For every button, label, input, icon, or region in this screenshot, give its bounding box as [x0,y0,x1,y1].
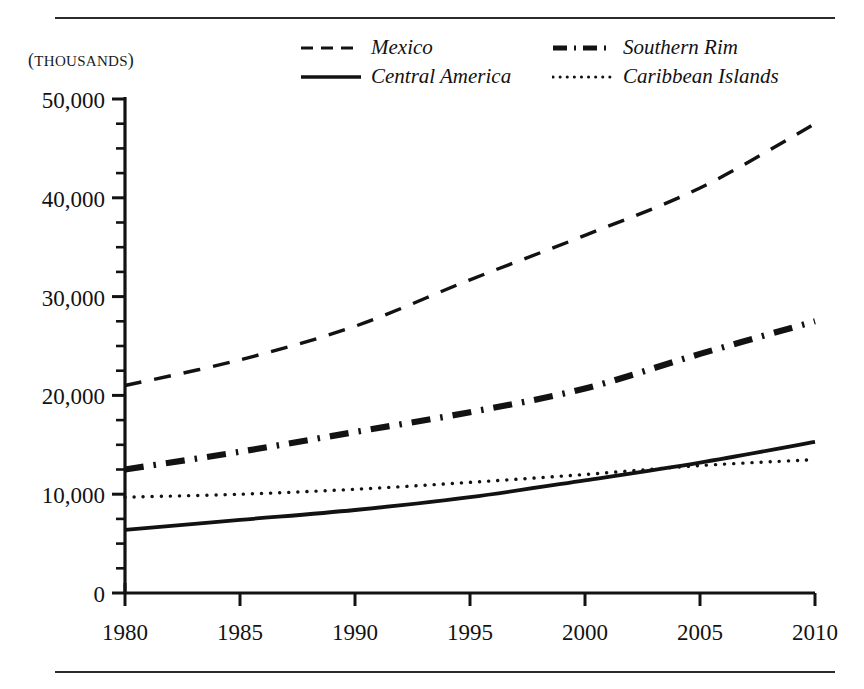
svg-text:20,000: 20,000 [42,384,105,409]
svg-text:2000: 2000 [562,620,608,645]
svg-text:2005: 2005 [677,620,723,645]
series-line-mexico [125,124,815,386]
svg-text:50,000: 50,000 [42,88,105,113]
series-line-southern-rim [125,321,815,469]
svg-text:30,000: 30,000 [42,286,105,311]
chart-series-lines [125,124,815,530]
svg-text:1995: 1995 [447,620,493,645]
svg-text:2010: 2010 [792,620,838,645]
chart-tick-labels: 50,00040,00030,00020,00010,0000198019851… [42,88,838,645]
series-line-central-america [125,442,815,530]
svg-text:10,000: 10,000 [42,483,105,508]
series-line-caribbean-islands [125,460,815,498]
svg-text:40,000: 40,000 [42,187,105,212]
svg-text:1980: 1980 [102,620,148,645]
svg-text:0: 0 [94,582,106,607]
svg-text:1990: 1990 [332,620,378,645]
svg-text:1985: 1985 [217,620,263,645]
chart-plot-area: 50,00040,00030,00020,00010,0000198019851… [0,0,864,689]
